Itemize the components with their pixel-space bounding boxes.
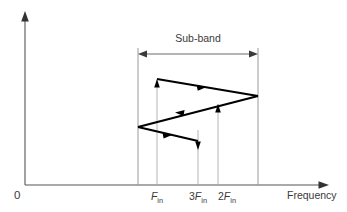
- figure-canvas: Sub-band 0 Frequency Fin 3Fin 2Fin: [0, 0, 347, 212]
- tick-subscript-f-in: in: [157, 196, 163, 205]
- subband-label: Sub-band: [175, 32, 221, 44]
- tick-label-f-in: Fin: [151, 190, 163, 205]
- x-axis-label: Frequency: [287, 189, 337, 201]
- frequency-sweep-figure: Sub-band 0 Frequency Fin 3Fin 2Fin: [0, 0, 347, 212]
- subband-measure-right-arrowhead: [249, 51, 258, 58]
- sweep-retrace-arrow-3f-in: [195, 142, 201, 151]
- x-axis-arrowhead: [319, 181, 330, 189]
- subband-measure-left-arrowhead: [138, 51, 147, 58]
- sweep-direction-arrow-middle: [175, 110, 185, 116]
- sweep-segment-upper: [157, 79, 258, 96]
- sweep-segment-middle: [138, 96, 258, 127]
- tick-subscript-2f-in: in: [230, 196, 236, 205]
- tick-label-2f-in: 2Fin: [218, 190, 236, 205]
- origin-label: 0: [14, 189, 20, 201]
- y-axis-arrowhead: [21, 11, 29, 22]
- tick-subscript-3f-in: in: [201, 196, 207, 205]
- subband-measure: [138, 51, 258, 58]
- tick-label-3f-in: 3Fin: [189, 190, 207, 205]
